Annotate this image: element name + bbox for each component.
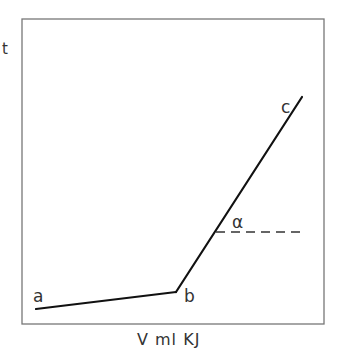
x-axis-label: V ml KJ xyxy=(137,330,200,349)
segment-a-b xyxy=(36,292,176,309)
segment-b-c xyxy=(176,97,302,292)
y-axis-label: t xyxy=(2,40,8,58)
angle-alpha-label: α xyxy=(232,212,243,232)
point-b-label: b xyxy=(184,286,195,306)
point-c-label: c xyxy=(281,97,290,117)
plot-frame xyxy=(22,19,324,324)
diagram-canvas: t a b c α V ml KJ xyxy=(0,0,341,360)
point-a-label: a xyxy=(33,286,43,306)
